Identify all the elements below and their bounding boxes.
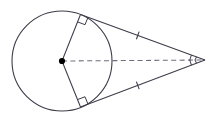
- figure-canvas: [0, 0, 213, 120]
- geometry-figure: [0, 0, 213, 120]
- center-point-dot: [59, 58, 65, 64]
